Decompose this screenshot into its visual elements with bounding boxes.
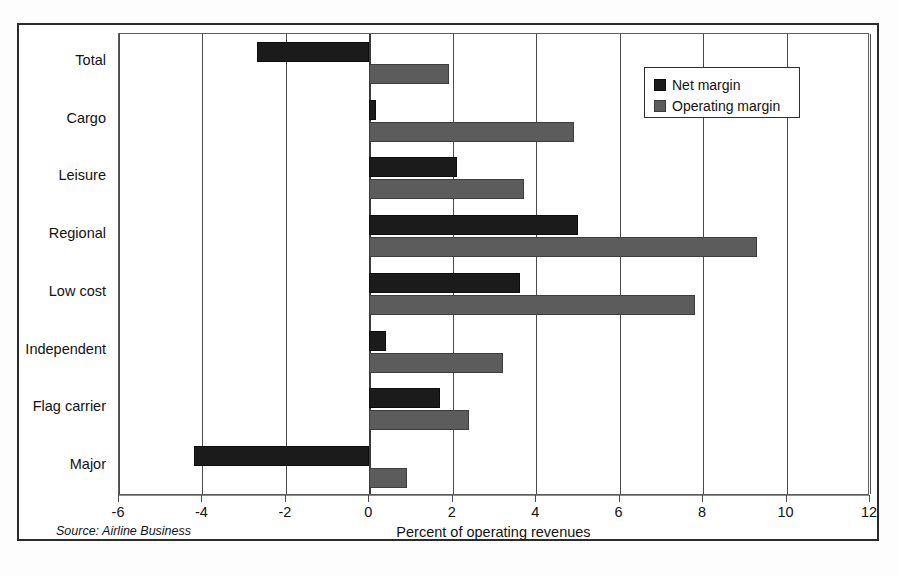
bar-op-leisure[interactable] [369,179,523,199]
bar-op-flag-carrier[interactable] [369,410,469,430]
bar-net-independent[interactable] [369,331,386,351]
bar-op-low-cost[interactable] [369,295,694,315]
bar-net-flag-carrier[interactable] [369,388,440,408]
x-axis-title: Percent of operating revenues [118,524,869,540]
x-tick-neg6 [118,495,119,502]
y-axis-label-cargo: Cargo [0,110,106,126]
x-tick-label-4: 4 [531,504,539,520]
x-tick-neg4 [201,495,202,502]
x-tick-label-12: 12 [861,504,877,520]
bar-net-low-cost[interactable] [369,273,519,293]
source-note: Source: Airline Business [56,524,191,538]
legend-item-operating-margin[interactable]: Operating margin [654,95,799,116]
bar-row [119,381,868,439]
bar-net-regional[interactable] [369,215,578,235]
x-tick-4 [535,495,536,502]
bar-op-regional[interactable] [369,237,757,257]
y-axis-label-total: Total [0,52,106,68]
x-tick-neg2 [285,495,286,502]
x-tick-label-neg2: -2 [278,504,291,520]
chart-page: TotalCargoLeisureRegionalLow costIndepen… [0,0,898,576]
bar-row [119,438,868,496]
bar-net-major[interactable] [194,446,369,466]
bar-op-cargo[interactable] [369,122,573,142]
bar-op-total[interactable] [369,64,448,84]
gridline-12 [870,34,871,494]
legend-item-net-margin[interactable]: Net margin [654,74,799,95]
legend-label-operating-margin: Operating margin [672,98,780,114]
x-tick-12 [869,495,870,502]
x-tick-label-6: 6 [615,504,623,520]
bar-row [119,265,868,323]
y-axis-label-flag-carrier: Flag carrier [0,398,106,414]
chart-legend[interactable]: Net margin Operating margin [644,67,800,118]
x-axis-ticks: -6-4-2024681012 [118,495,869,525]
x-tick-label-2: 2 [448,504,456,520]
bar-row [119,150,868,208]
x-tick-label-8: 8 [698,504,706,520]
x-tick-10 [786,495,787,502]
x-tick-label-0: 0 [364,504,372,520]
y-axis-label-major: Major [0,456,106,472]
bar-row [119,207,868,265]
bar-net-total[interactable] [257,42,370,62]
y-axis-category-labels: TotalCargoLeisureRegionalLow costIndepen… [0,33,112,495]
y-axis-label-regional: Regional [0,225,106,241]
bar-row [119,323,868,381]
y-axis-label-leisure: Leisure [0,167,106,183]
bar-op-major[interactable] [369,468,407,488]
x-tick-2 [452,495,453,502]
x-tick-0 [368,495,369,502]
y-axis-label-independent: Independent [0,341,106,357]
legend-label-net-margin: Net margin [672,77,740,93]
bar-op-independent[interactable] [369,353,503,373]
legend-swatch-net-margin-icon [654,79,666,91]
bar-net-leisure[interactable] [369,157,457,177]
bar-net-cargo[interactable] [369,100,375,120]
x-tick-label-neg6: -6 [112,504,125,520]
x-tick-label-neg4: -4 [195,504,208,520]
x-tick-label-10: 10 [777,504,793,520]
x-tick-6 [619,495,620,502]
y-axis-label-low-cost: Low cost [0,283,106,299]
x-tick-8 [702,495,703,502]
legend-swatch-operating-margin-icon [654,100,666,112]
